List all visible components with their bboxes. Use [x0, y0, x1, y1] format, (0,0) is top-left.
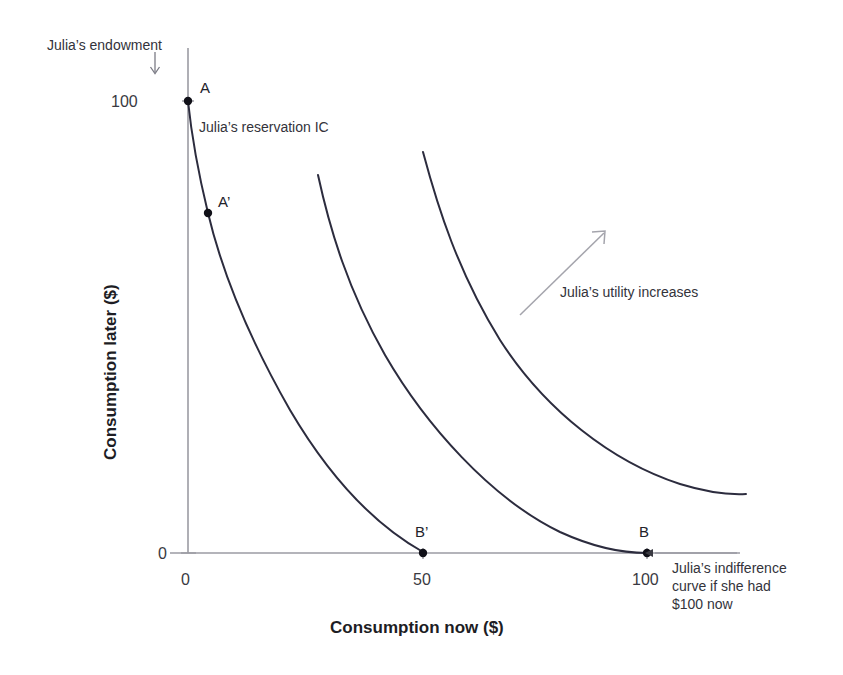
point-label-a-prime: A’ [218, 192, 230, 211]
y-axis-title: Consumption later ($) [100, 284, 122, 460]
point-label-b-prime: B’ [415, 522, 428, 541]
x-axis-title: Consumption now ($) [330, 617, 504, 639]
ic-100-now-leader-icon [645, 549, 737, 557]
annotation-utility-increases: Julia’s utility increases [560, 284, 698, 302]
annotation-ic-100-now-line3: $100 now [672, 596, 733, 614]
curve-reservation-ic [188, 101, 423, 552]
y-tick-label-0: 0 [158, 544, 167, 564]
x-tick-label-0: 0 [181, 570, 190, 590]
annotation-endowment: Julia’s endowment [47, 37, 162, 55]
annotation-reservation-ic: Julia’s reservation IC [199, 119, 329, 137]
data-point-a [184, 97, 192, 105]
annotation-ic-100-now-line2: curve if she had [672, 578, 771, 596]
y-tick-label-100: 100 [111, 92, 138, 112]
data-point-b-prime [419, 549, 427, 557]
data-point-a-prime [204, 209, 212, 217]
annotation-ic-100-now-line1: Julia’s indifference [672, 560, 787, 578]
utility-increases-arrow-icon [520, 231, 605, 315]
indifference-curve-figure: 100 0 0 50 100 A A’ B’ B Julia’s endowme… [0, 0, 843, 675]
point-label-b: B [639, 522, 649, 541]
x-tick-label-100: 100 [632, 570, 659, 590]
point-label-a: A [200, 78, 210, 97]
curve-ic-100-now [423, 152, 746, 494]
x-tick-label-50: 50 [413, 570, 431, 590]
endowment-arrow-icon [151, 52, 160, 74]
